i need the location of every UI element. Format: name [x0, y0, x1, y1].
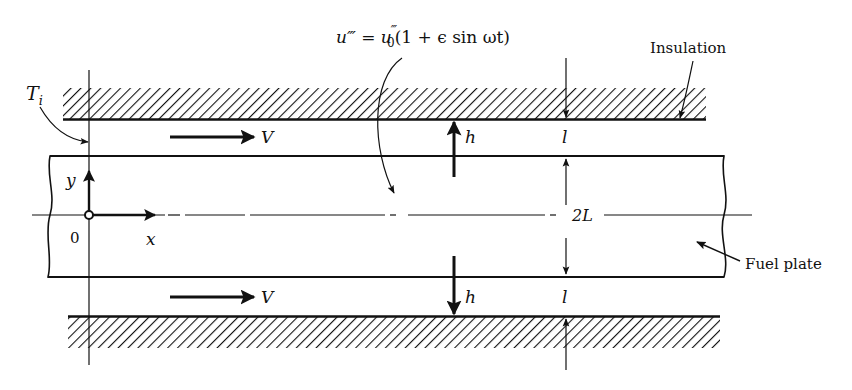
insulation-label: Insulation	[650, 39, 727, 57]
heat-generation-equation: u‴ = u‴0(1 + ϵ sin ωt)	[336, 24, 510, 50]
origin-label: 0	[70, 229, 80, 247]
x-axis-label: x	[146, 229, 156, 249]
fuel-plate-label: Fuel plate	[745, 255, 822, 273]
heat-coeff-label-top: h	[465, 127, 476, 147]
y-axis-label: y	[65, 170, 76, 190]
velocity-label-bottom: V	[261, 287, 275, 307]
heat-coeff-label-bottom: h	[465, 287, 476, 307]
thickness-label: 2L	[571, 206, 593, 225]
gap-label-top: l	[562, 127, 567, 147]
fuel-plate	[48, 156, 726, 277]
origin-marker	[85, 211, 93, 219]
fuel-plate-channel-diagram: u‴ = u‴0(1 + ϵ sin ωt) Ti Insulation Fue…	[0, 0, 852, 390]
bottom-insulation	[68, 317, 720, 349]
top-insulation	[63, 88, 706, 120]
gap-label-bottom: l	[562, 287, 567, 307]
inlet-temperature-label: Ti	[26, 82, 43, 108]
velocity-label-top: V	[261, 127, 275, 147]
